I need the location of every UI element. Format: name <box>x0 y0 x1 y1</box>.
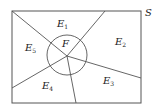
universe-rectangle <box>12 11 141 103</box>
region-label-e3: E3 <box>102 75 114 87</box>
universe-label: S <box>145 7 152 18</box>
region-label-e2: E2 <box>114 36 126 48</box>
partition-diagram: S F E1 E2 E3 E4 E5 <box>0 0 159 112</box>
divider-e4-e5 <box>12 56 67 88</box>
region-label-e4: E4 <box>41 80 53 92</box>
region-label-e5: E5 <box>24 42 36 54</box>
divider-e3-e4 <box>67 56 76 103</box>
region-label-e1: E1 <box>56 18 68 30</box>
circle-label: F <box>61 38 70 49</box>
